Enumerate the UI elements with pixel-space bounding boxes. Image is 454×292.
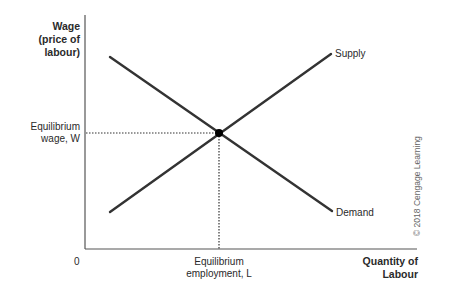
y-axis-label-line3: labour) <box>18 46 80 59</box>
y-axis-label-line2: (price of <box>18 33 80 46</box>
origin-label: 0 <box>74 256 80 268</box>
wage-label-line2: wage, W <box>4 133 80 145</box>
equilibrium-point <box>215 129 223 137</box>
x-axis-label-line2: Labour <box>340 268 418 281</box>
supply-label: Supply <box>335 48 366 60</box>
y-axis-label-line1: Wage <box>18 20 80 33</box>
copyright-credit: © 2018 Cengage Learning <box>412 136 422 236</box>
x-axis-label-line1: Quantity of <box>340 255 418 268</box>
y-axis-label: Wage (price of labour) <box>18 20 80 59</box>
wage-label-line1: Equilibrium <box>4 121 80 133</box>
employment-label-line2: employment, L <box>169 268 269 280</box>
employment-label-line1: Equilibrium <box>169 256 269 268</box>
demand-label: Demand <box>336 207 374 219</box>
x-axis-label: Quantity of Labour <box>340 255 418 281</box>
equilibrium-employment-label: Equilibrium employment, L <box>169 256 269 280</box>
equilibrium-wage-label: Equilibrium wage, W <box>4 121 80 145</box>
